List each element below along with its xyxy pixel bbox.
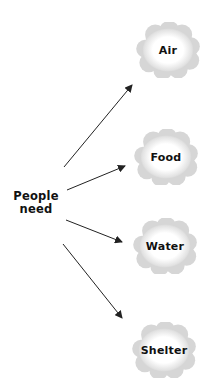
label-air: Air [159, 44, 177, 57]
arrow-to-air [64, 85, 132, 167]
label-food: Food [151, 151, 182, 164]
source-label-line2: need [13, 203, 58, 216]
label-water: Water [146, 240, 184, 253]
arrow-to-food [67, 166, 125, 190]
arrow-to-water [66, 220, 122, 242]
arrow-to-shelter [63, 244, 122, 318]
source-label-people-need: People need [13, 190, 58, 216]
label-shelter: Shelter [141, 344, 188, 357]
